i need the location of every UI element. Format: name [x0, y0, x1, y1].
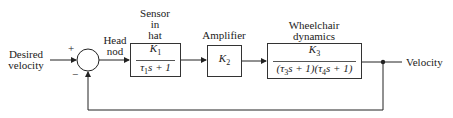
head-nod-label: Headnod — [102, 35, 128, 57]
amplifier-title: Amplifier — [201, 30, 247, 41]
wheelchair-title: Wheelchairdynamics — [284, 20, 344, 42]
input-label: Desiredvelocity — [6, 49, 46, 71]
output-label: Velocity — [406, 57, 443, 68]
plus-sign: + — [68, 43, 74, 54]
sensor-block: K1 τ1s + 1 — [130, 43, 181, 77]
sensor-title: Sensorinhat — [135, 8, 175, 41]
amplifier-block: K2 — [207, 45, 242, 77]
minus-sign: − — [72, 69, 78, 80]
wheelchair-block: K3 (τ3s + 1)(τ4s + 1) — [267, 43, 362, 79]
summing-junction — [77, 49, 99, 71]
